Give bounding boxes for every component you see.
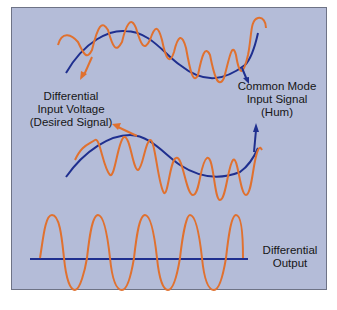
label-common-mode-input: Common Mode Input Signal (Hum) — [222, 80, 332, 119]
label-differential-output: Differential Output — [250, 244, 330, 270]
differential-output-wave — [40, 215, 243, 290]
label-differential-input: Differential Input Voltage (Desired Sign… — [16, 90, 126, 129]
desired-signal-arrow-top — [84, 57, 92, 75]
common-mode-arrowhead-middle — [253, 123, 259, 132]
middle-desired-signal-wave — [75, 137, 262, 200]
common-mode-arrow-middle — [254, 130, 256, 152]
